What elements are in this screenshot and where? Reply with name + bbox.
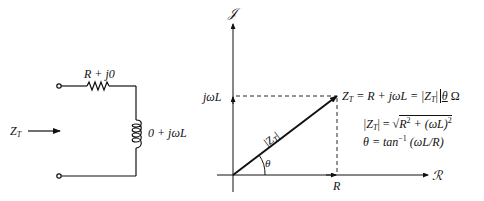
angle-label: θ (265, 158, 270, 169)
circuit (28, 82, 141, 178)
ang-exp: −1 (398, 134, 407, 143)
inductor-label: 0 + jωL (148, 127, 187, 139)
mag-lhs: |Z (363, 117, 373, 131)
inductor-icon (132, 120, 141, 148)
phasor-diagram (217, 24, 428, 192)
angle-equation: θ = tan−1 (ωL/R) (363, 135, 444, 148)
ang-rhs: (ωL/R) (407, 135, 444, 149)
eq-unit: Ω (448, 89, 460, 103)
y-tick-label: jωL (203, 91, 221, 103)
eq-angle: θ (440, 89, 448, 103)
mag-radicand-b: + (ωL) (411, 117, 448, 131)
mag-radicand-a: R (399, 117, 406, 131)
bottom-terminal (57, 174, 61, 178)
real-axis-label: ℛ (432, 169, 442, 182)
x-tick-label: R (333, 180, 340, 192)
magnitude-equation: |ZT| = √R2 + (ωL)2 (363, 117, 452, 132)
imaginary-axis-label: 𝒥 (228, 6, 237, 19)
eq-rhs: = R + jωL = |Z (353, 89, 431, 103)
impedance-vector (233, 96, 337, 175)
resistor-icon (87, 82, 109, 90)
mag-radicand-b-exp: 2 (448, 116, 452, 125)
input-label-main: Z (10, 124, 17, 138)
mag-mid: | = √ (377, 117, 399, 131)
impedance-equation: ZT = R + jωL = |ZT|θ Ω (342, 90, 460, 104)
top-terminal (57, 84, 61, 88)
input-impedance-label: ZT (10, 125, 21, 139)
input-label-sub: T (17, 130, 21, 139)
eq-rhs-end: | (435, 89, 437, 103)
resistor-label: R + j0 (84, 68, 115, 80)
ang-lhs: θ = tan (363, 135, 398, 149)
mag-radicand: R2 + (ωL)2 (399, 115, 452, 131)
eq-lhs: Z (342, 89, 349, 103)
